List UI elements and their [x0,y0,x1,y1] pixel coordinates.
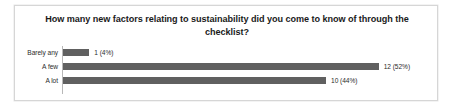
bar-track: 12 (52%) [63,60,439,74]
bar-track: 10 (44%) [63,74,439,88]
chart-frame: How many new factors relating to sustain… [14,5,438,101]
chart-canvas: How many new factors relating to sustain… [0,0,455,108]
bar-track: 1 (4%) [63,46,439,60]
bar-a-few [63,63,379,70]
plot-area: Barely any 1 (4%) A few 12 (52%) A lot [15,44,439,100]
category-label-a-lot: A lot [15,74,58,88]
bar-row: A lot 10 (44%) [15,74,439,88]
bar-a-lot [63,77,326,84]
bar-row: Barely any 1 (4%) [15,46,439,60]
category-label-barely-any: Barely any [15,46,58,60]
bar-barely-any [63,49,89,56]
bar-value-barely-any: 1 (4%) [94,46,113,60]
bar-value-a-lot: 10 (44%) [331,74,357,88]
chart-title: How many new factors relating to sustain… [35,13,419,38]
bar-row: A few 12 (52%) [15,60,439,74]
bar-value-a-few: 12 (52%) [384,60,410,74]
bar-rows: Barely any 1 (4%) A few 12 (52%) A lot [15,44,439,100]
category-label-a-few: A few [15,60,58,74]
